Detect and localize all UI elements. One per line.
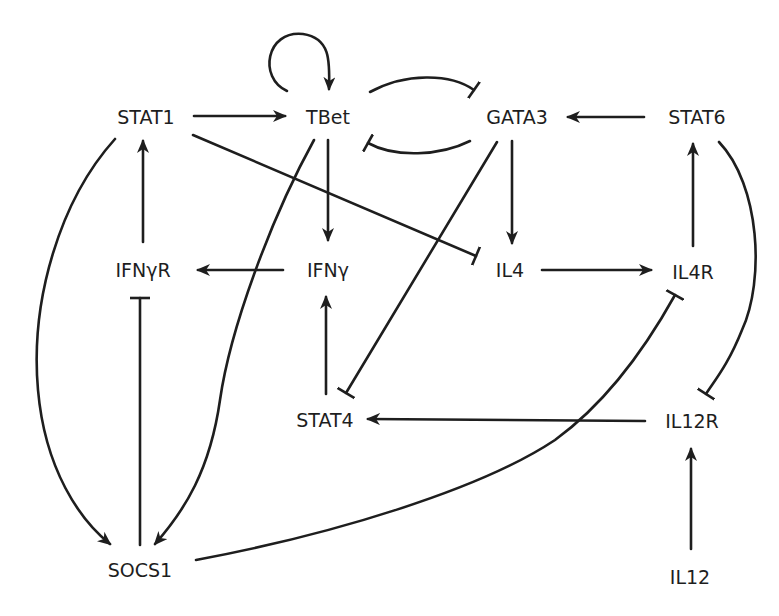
edge-gata3-inhibits-tbet [368, 141, 470, 153]
edge-tbet-activates-socs1 [155, 140, 314, 544]
regulatory-network-diagram: STAT1 TBet GATA3 STAT6 IFNγR IFNγ IL4 IL… [0, 0, 779, 616]
node-socs1: SOCS1 [108, 559, 172, 581]
node-gata3: GATA3 [486, 106, 547, 128]
node-il4: IL4 [496, 259, 524, 281]
node-ifng: IFNγ [307, 259, 349, 281]
edge-tbet-self-activation [269, 34, 329, 91]
nodes: STAT1 TBet GATA3 STAT6 IFNγR IFNγ IL4 IL… [108, 106, 726, 588]
node-ifngr: IFNγR [115, 259, 170, 281]
node-il12: IL12 [670, 566, 710, 588]
edge-gata3-inhibits-stat4 [346, 142, 497, 393]
edge-tbet-inhibits-gata3 [370, 77, 474, 92]
edge-stat1-activates-socs1 [37, 139, 115, 544]
node-stat1: STAT1 [117, 106, 174, 128]
node-il4r: IL4R [672, 261, 713, 283]
node-il12r: IL12R [665, 410, 719, 432]
node-stat4: STAT4 [296, 409, 353, 431]
edge-socs1-inhibits-il4r [196, 295, 675, 560]
edge-il12r-activates-stat4 [368, 419, 645, 421]
node-tbet: TBet [305, 106, 350, 128]
node-stat6: STAT6 [668, 106, 725, 128]
